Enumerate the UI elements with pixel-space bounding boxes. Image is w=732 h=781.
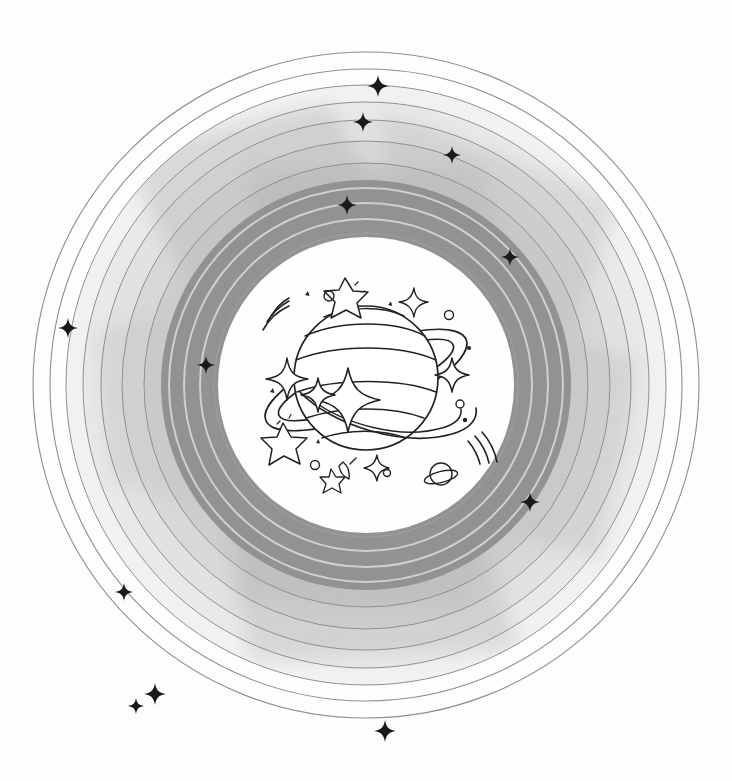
illustration-canvas: Saturn with Concentric Orbital Rings sat… <box>0 0 732 781</box>
saturn-rings-illustration <box>0 0 732 781</box>
paper-grain-overlay <box>0 0 732 781</box>
